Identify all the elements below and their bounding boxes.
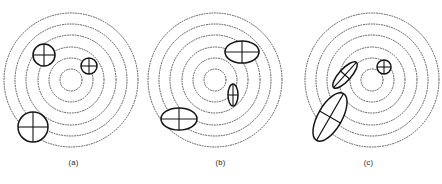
concentric-ring-1 — [204, 69, 226, 91]
marker-inner-tilted — [329, 58, 361, 91]
marker-upper-left — [33, 44, 55, 66]
panel-c-diagram — [295, 0, 442, 160]
figure-panels-container: (a) (b) (c) — [0, 0, 442, 184]
panel-a-diagram — [0, 0, 147, 160]
panel-c-caption: (c) — [295, 158, 442, 168]
marker-lower-left — [161, 108, 197, 130]
panel-b: (b) — [147, 0, 294, 184]
marker-center-right — [228, 84, 238, 106]
concentric-ring-1 — [60, 69, 82, 91]
panel-b-diagram — [147, 0, 294, 160]
marker-lower-left — [18, 112, 48, 142]
panel-a: (a) — [0, 0, 147, 184]
panel-b-caption: (b) — [147, 158, 294, 168]
marker-small-circle — [377, 60, 391, 74]
panel-c: (c) — [295, 0, 442, 184]
marker-upper-right — [225, 41, 259, 63]
panel-a-caption: (a) — [0, 158, 147, 168]
marker-right — [81, 58, 97, 74]
